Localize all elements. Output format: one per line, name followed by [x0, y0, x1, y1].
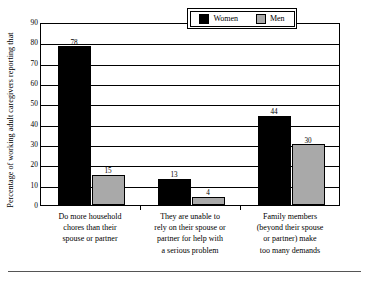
chart-legend: WomenMen: [187, 8, 297, 29]
x-category-label-line: or partner) make: [236, 233, 344, 244]
x-category-label-line: chores than their: [36, 222, 144, 233]
x-category-label-1: Do more householdchores than theirspouse…: [36, 211, 144, 245]
y-axis-title: Percentage of working adult caregivers r…: [7, 32, 15, 207]
bar-women-group-3: [258, 116, 291, 205]
y-tick-label: 50: [20, 101, 38, 108]
x-category-label-2: They are unable torely on their spouse o…: [136, 211, 244, 256]
legend-items-container: WomenMen: [190, 11, 295, 27]
legend-swatch-women-icon: [199, 14, 209, 24]
bar-men-group-3: [292, 144, 325, 205]
y-tick-label: 90: [20, 19, 38, 26]
bar-value-label: 44: [270, 109, 277, 116]
x-category-label-line: Do more household: [36, 211, 144, 222]
x-category-label-line: too many demands: [236, 245, 344, 256]
y-tick-label: 10: [20, 182, 38, 189]
x-category-label-3: Family members(beyond their spouseor par…: [236, 211, 344, 256]
bar-value-label: 78: [70, 40, 77, 47]
legend-item-women[interactable]: Women: [199, 14, 238, 24]
y-axis-tick-labels: 9080706050403020100: [20, 23, 38, 206]
legend-swatch-men-icon: [256, 14, 266, 24]
y-tick-label: 80: [20, 40, 38, 47]
y-tick-label: 30: [20, 141, 38, 148]
x-category-label-line: spouse or partner: [36, 233, 144, 244]
bar-men-group-1: [92, 175, 125, 206]
y-tick-label: 70: [20, 60, 38, 67]
x-tick-mark: [240, 206, 241, 210]
bar-series-container: 78151344430: [41, 24, 339, 205]
plot-area: 78151344430: [40, 23, 340, 206]
bar-value-label: 30: [304, 137, 311, 144]
x-category-label-line: partner for help with: [136, 233, 244, 244]
x-axis-category-labels: Do more householdchores than theirspouse…: [40, 211, 340, 261]
legend-label: Men: [270, 15, 285, 23]
y-tick-label: 20: [20, 162, 38, 169]
y-tick-label: 40: [20, 121, 38, 128]
legend-item-men[interactable]: Men: [256, 14, 285, 24]
bar-women-group-2: [158, 179, 191, 205]
x-category-label-line: a serious problem: [136, 245, 244, 256]
x-category-label-line: They are unable to: [136, 211, 244, 222]
legend-label: Women: [213, 15, 238, 23]
bar-chart-figure: Percentage of working adult caregivers r…: [0, 0, 369, 283]
x-category-label-line: Family members: [236, 211, 344, 222]
y-tick-label: 60: [20, 80, 38, 87]
bar-women-group-1: [58, 46, 91, 205]
x-tick-mark: [140, 206, 141, 210]
bar-value-label: 4: [206, 190, 210, 197]
y-axis-title-container: Percentage of working adult caregivers r…: [0, 0, 22, 240]
footer-divider: [8, 271, 361, 272]
bar-value-label: 13: [170, 172, 177, 179]
y-tick-label: 0: [20, 202, 38, 209]
bar-value-label: 15: [104, 168, 111, 175]
bar-men-group-2: [192, 197, 225, 205]
x-category-label-line: (beyond their spouse: [236, 222, 344, 233]
x-category-label-line: rely on their spouse or: [136, 222, 244, 233]
